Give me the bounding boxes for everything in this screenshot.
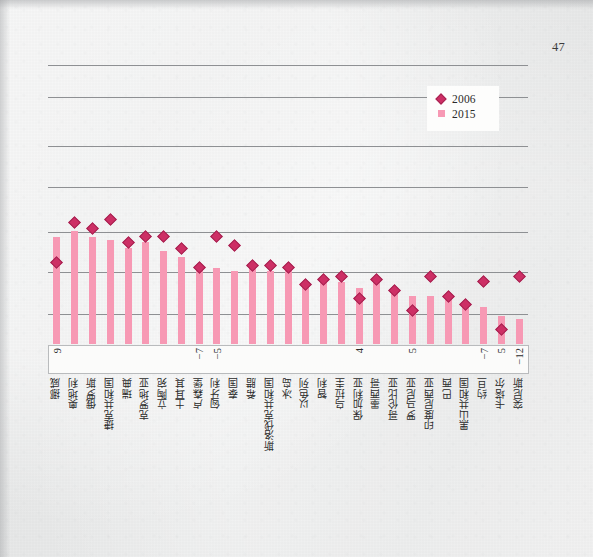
page-number: 47 — [552, 40, 565, 55]
bar-2015 — [89, 237, 96, 344]
bar-slot — [285, 62, 292, 344]
bar-2015 — [267, 271, 274, 344]
bar-slot — [125, 62, 132, 344]
category-label: 瑞典 — [123, 378, 133, 399]
value-label: 5 — [408, 348, 419, 353]
category-label: 土耳其 — [176, 378, 186, 409]
category-label: 匈牙利 — [211, 378, 221, 409]
value-label: −12 — [515, 348, 526, 364]
category-label: 乌拉圭 — [336, 378, 346, 409]
category-label: 突尼斯 — [514, 378, 524, 409]
bar-slot — [267, 62, 274, 344]
legend-item-2015: 2015 — [435, 106, 493, 121]
value-label: 9 — [53, 348, 64, 353]
value-label: −7 — [480, 348, 491, 359]
bar-2015 — [391, 293, 398, 344]
bar-slot — [249, 62, 256, 344]
bar-2015 — [427, 296, 434, 344]
value-label: 5 — [497, 348, 508, 353]
bar-2015 — [249, 268, 256, 344]
value-label: 4 — [355, 348, 366, 353]
category-label: 智利 — [318, 378, 328, 399]
bar-2015 — [196, 265, 203, 344]
bar-slot — [178, 62, 185, 344]
value-label-strip: 9−7−545−75−12 — [48, 345, 529, 374]
legend-label-2015: 2015 — [452, 108, 476, 120]
bar-slot — [196, 62, 203, 344]
bar-slot — [231, 62, 238, 344]
bar-2015 — [53, 237, 60, 344]
category-label: 罗马尼亚 — [407, 378, 417, 420]
bar-slot — [53, 62, 60, 344]
category-label: 斯洛伐克共和国 — [265, 378, 275, 451]
chart-legend: 2006 2015 — [427, 86, 499, 131]
bar-2015 — [480, 307, 487, 344]
bar-slot — [142, 62, 149, 344]
diamond-marker-icon — [435, 95, 447, 103]
bar-2015 — [302, 282, 309, 344]
bar-slot — [409, 62, 416, 344]
bar-slot — [338, 62, 345, 344]
bar-2015 — [107, 240, 114, 344]
category-label: 捷克共和国 — [105, 378, 115, 430]
bar-slot — [391, 62, 398, 344]
bar-2015 — [213, 268, 220, 344]
value-label: −5 — [213, 348, 224, 359]
category-label: 哥伦比亚 — [389, 378, 399, 420]
category-label: 保加利亚 — [354, 378, 364, 420]
bar-2015 — [160, 251, 167, 344]
category-label: 印度尼西亚 — [425, 378, 435, 430]
bar-slot — [89, 62, 96, 344]
bar-2015 — [516, 319, 523, 344]
bar-slot — [516, 62, 523, 344]
bar-2015 — [178, 257, 185, 344]
bar-2015 — [71, 231, 78, 344]
category-label: 冰岛 — [283, 378, 293, 399]
legend-label-2006: 2006 — [452, 93, 476, 105]
category-label: 立陶宛 — [158, 378, 168, 409]
bar-2015 — [285, 271, 292, 344]
category-label: 墨西哥 — [371, 378, 381, 409]
bar-2015 — [125, 248, 132, 344]
bar-slot — [71, 62, 78, 344]
bar-slot — [302, 62, 309, 344]
bar-slot — [373, 62, 380, 344]
category-axis-labels: 挪威奥地利俄罗斯捷克共和国瑞典克罗地亚立陶宛土耳其卢森堡匈牙利泰国希腊斯洛伐克共… — [48, 378, 529, 538]
scan-left-edge-shadow — [0, 0, 10, 557]
category-label: 泰国 — [229, 378, 239, 399]
legend-item-2006: 2006 — [435, 91, 493, 106]
bar-slot — [107, 62, 114, 344]
scan-top-edge-shadow — [0, 0, 593, 9]
category-label: 克罗地亚 — [140, 378, 150, 420]
category-label: 希腊 — [247, 378, 257, 399]
category-label: 黑山共和国 — [460, 378, 470, 430]
bar-slot — [320, 62, 327, 344]
bar-2015 — [445, 299, 452, 344]
bar-2015 — [338, 282, 345, 344]
category-label: 以色列 — [300, 378, 310, 409]
value-label: −7 — [195, 348, 206, 359]
category-label: 约旦 — [478, 378, 488, 399]
bar-slot — [213, 62, 220, 344]
square-marker-icon — [435, 110, 447, 117]
category-label: 卢森堡 — [194, 378, 204, 409]
bar-2015 — [231, 271, 238, 344]
bar-slot — [160, 62, 167, 344]
category-label: 挪威 — [51, 378, 61, 399]
bar-2015 — [373, 282, 380, 344]
bar-2015 — [142, 242, 149, 344]
bar-2015 — [320, 282, 327, 344]
category-label: 巴西 — [443, 378, 453, 399]
category-label: 俄罗斯 — [87, 378, 97, 409]
category-label: 奥地利 — [69, 378, 79, 409]
category-label: 卡塔尔 — [496, 378, 506, 409]
